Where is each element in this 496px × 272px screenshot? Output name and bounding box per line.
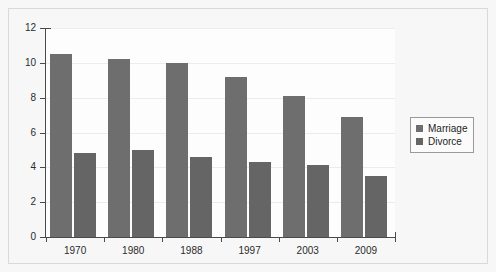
y-axis-tick	[40, 28, 45, 29]
chart-figure: 024681012 197019801988199720032009 Marri…	[0, 0, 496, 272]
bar-divorce-2009	[365, 176, 387, 237]
bar-marriage-1970	[50, 54, 72, 237]
x-axis-tick-label: 2003	[279, 245, 337, 256]
bar-divorce-1988	[190, 157, 212, 237]
chart-legend: MarriageDivorce	[410, 117, 474, 153]
x-axis-tick-label: 1980	[104, 245, 162, 256]
bar-divorce-1980	[132, 150, 154, 237]
y-axis-tick-label: 4	[0, 162, 36, 172]
y-axis-tick-label: 8	[0, 93, 36, 103]
bar-divorce-1970	[74, 153, 96, 237]
y-axis-tick-label: 0	[0, 232, 36, 242]
x-axis-tick	[46, 238, 47, 242]
legend-label: Divorce	[428, 136, 462, 147]
x-axis-tick	[162, 238, 163, 242]
x-axis-tick-label: 1970	[46, 245, 104, 256]
legend-label: Marriage	[428, 123, 467, 134]
y-axis-tick-label: 10	[0, 58, 36, 68]
y-axis-cap	[45, 28, 51, 29]
x-axis-tick-label: 2009	[337, 245, 395, 256]
y-axis-tick-label: 12	[0, 23, 36, 33]
legend-swatch-icon	[416, 138, 423, 145]
bar-divorce-2003	[307, 165, 329, 237]
y-axis-tick	[40, 202, 45, 203]
y-axis-tick-label: 2	[0, 197, 36, 207]
bar-marriage-2003	[283, 96, 305, 237]
bar-marriage-2009	[341, 117, 363, 237]
legend-item-marriage[interactable]: Marriage	[416, 122, 467, 135]
x-axis-tick-label: 1997	[221, 245, 279, 256]
x-axis-tick-label: 1988	[162, 245, 220, 256]
gridline	[46, 63, 395, 64]
x-axis-tick	[395, 238, 396, 242]
legend-swatch-icon	[416, 125, 423, 132]
y-axis-tick	[40, 237, 45, 238]
y-axis-line	[45, 28, 46, 238]
bar-marriage-1980	[108, 59, 130, 237]
bar-marriage-1988	[166, 63, 188, 237]
bar-divorce-1997	[249, 162, 271, 237]
y-axis-tick-label: 6	[0, 128, 36, 138]
y-axis-tick	[40, 98, 45, 99]
gridline	[46, 98, 395, 99]
y-axis-tick	[40, 167, 45, 168]
bar-marriage-1997	[225, 77, 247, 237]
legend-item-divorce[interactable]: Divorce	[416, 135, 467, 148]
y-axis-tick	[40, 63, 45, 64]
x-axis-tick	[221, 238, 222, 242]
x-axis-tick	[279, 238, 280, 242]
x-axis-tick	[337, 238, 338, 242]
gridline	[46, 28, 395, 29]
x-axis-tick	[104, 238, 105, 242]
y-axis-tick	[40, 133, 45, 134]
